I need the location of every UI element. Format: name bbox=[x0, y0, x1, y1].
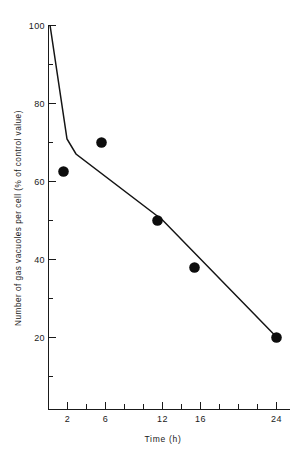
y-tick-label-60: 60 bbox=[34, 177, 45, 187]
y-major-ticks bbox=[49, 26, 57, 338]
y-tick-labels: 100 80 60 40 20 bbox=[29, 21, 45, 343]
trend-line bbox=[50, 25, 277, 337]
y-tick-label-40: 40 bbox=[34, 255, 45, 265]
x-tick-labels: 2 6 12 16 24 bbox=[65, 414, 282, 424]
x-major-ticks bbox=[68, 402, 277, 410]
x-axis-title: Time (h) bbox=[145, 434, 182, 444]
axes-group bbox=[49, 25, 291, 410]
x-tick-label-12: 12 bbox=[157, 414, 168, 424]
x-tick-label-6: 6 bbox=[103, 414, 108, 424]
y-axis-title: Number of gas vacuoles per cell (% of co… bbox=[14, 110, 23, 326]
chart-figure: 100 80 60 40 20 2 6 12 16 24 Time (h) Nu… bbox=[0, 0, 305, 458]
y-minor-ticks bbox=[49, 65, 54, 377]
y-tick-label-100: 100 bbox=[29, 21, 45, 31]
data-point-6h bbox=[96, 137, 107, 148]
y-tick-label-80: 80 bbox=[34, 99, 45, 109]
x-tick-label-24: 24 bbox=[271, 414, 282, 424]
x-minor-ticks bbox=[87, 404, 258, 410]
data-point-24h bbox=[271, 332, 282, 343]
data-markers bbox=[58, 137, 282, 343]
data-point-2h bbox=[58, 166, 69, 177]
data-point-16h bbox=[189, 262, 200, 273]
x-tick-label-16: 16 bbox=[195, 414, 206, 424]
y-tick-label-20: 20 bbox=[34, 333, 45, 343]
data-point-12h bbox=[152, 215, 163, 226]
x-tick-label-2: 2 bbox=[65, 414, 70, 424]
chart-canvas: 100 80 60 40 20 2 6 12 16 24 Time (h) Nu… bbox=[0, 0, 305, 458]
